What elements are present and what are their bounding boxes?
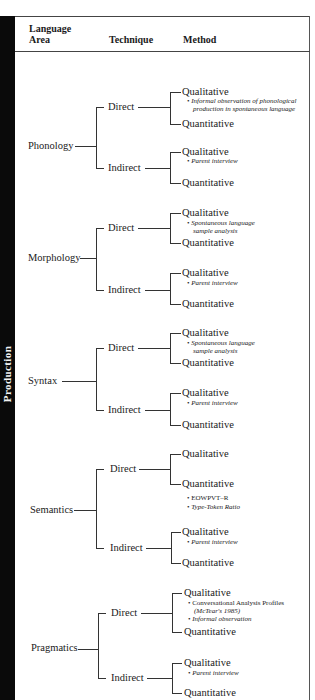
area-label: Semantics — [30, 504, 73, 515]
method-qualitative: Qualitative — [182, 146, 229, 157]
connector — [138, 107, 170, 108]
connector — [170, 304, 181, 305]
connector — [172, 663, 173, 694]
method-quantitative: Quantitative — [182, 298, 234, 309]
sidebar-band: Production — [0, 16, 15, 700]
connector — [96, 410, 104, 411]
connector — [170, 363, 181, 364]
connector — [146, 548, 171, 549]
connector — [170, 333, 181, 334]
method-note: • Parent interview — [187, 279, 238, 287]
connector — [139, 469, 170, 470]
technique-direct: Direct — [108, 101, 134, 112]
method-note: • Parent interview — [188, 669, 239, 677]
connector — [96, 348, 97, 411]
connector — [96, 228, 97, 291]
method-qualitative: Qualitative — [182, 327, 229, 338]
connector — [170, 213, 171, 244]
connector — [172, 693, 182, 694]
connector — [170, 273, 181, 274]
connector — [170, 152, 181, 153]
connector — [170, 454, 171, 485]
connector — [138, 228, 170, 229]
connector — [172, 632, 182, 633]
connector — [96, 469, 104, 470]
connector — [96, 348, 104, 349]
header-language-area-line1: Language — [29, 24, 71, 34]
connector — [172, 593, 173, 633]
connector — [75, 146, 96, 147]
technique-direct: Direct — [110, 463, 136, 474]
method-quantitative: Quantitative — [182, 177, 234, 188]
connector — [170, 393, 171, 426]
connector — [145, 410, 170, 411]
method-qualitative: Qualitative — [182, 267, 229, 278]
connector — [172, 663, 182, 664]
method-quantitative: Quantitative — [184, 626, 236, 637]
connector — [98, 613, 106, 614]
method-quantitative: Quantitative — [182, 357, 234, 368]
method-quantitative: Quantitative — [182, 478, 234, 489]
connector — [74, 510, 96, 511]
header-language-area-line2: Area — [29, 35, 50, 45]
method-note: production in spontaneous language — [193, 105, 295, 113]
connector — [98, 678, 106, 679]
method-note: • Type-Token Ratio — [187, 503, 240, 511]
connector — [141, 613, 172, 614]
sidebar-label-production: Production — [1, 346, 13, 402]
method-qualitative: Qualitative — [184, 657, 231, 668]
method-note: • Parent interview — [187, 399, 238, 407]
area-label: Syntax — [28, 375, 57, 386]
connector — [172, 593, 182, 594]
connector — [98, 613, 99, 679]
connector — [170, 92, 171, 125]
method-note: sample analysis — [193, 227, 238, 235]
method-note: • Parent interview — [187, 538, 238, 546]
technique-indirect: Indirect — [111, 672, 144, 683]
connector — [96, 107, 104, 108]
frame-right-border — [309, 16, 310, 700]
connector — [145, 290, 170, 291]
technique-indirect: Indirect — [110, 542, 143, 553]
connector — [145, 168, 170, 169]
area-label: Phonology — [28, 140, 74, 151]
method-qualitative: Qualitative — [182, 387, 229, 398]
method-quantitative: Quantitative — [182, 237, 234, 248]
connector — [62, 381, 96, 382]
method-qualitative: Qualitative — [182, 526, 229, 537]
connector — [170, 333, 171, 364]
method-note: • Conversational Analysis Profiles — [188, 599, 284, 607]
connector — [78, 649, 99, 650]
connector — [171, 532, 172, 564]
connector — [171, 563, 181, 564]
connector — [96, 168, 104, 169]
connector — [170, 243, 181, 244]
connector — [80, 258, 96, 259]
method-note: • Informal observation — [188, 615, 252, 623]
connector — [96, 228, 104, 229]
connector — [170, 92, 181, 93]
connector — [170, 183, 181, 184]
connector — [96, 548, 104, 549]
connector — [170, 213, 181, 214]
connector — [147, 678, 172, 679]
area-label: Pragmatics — [31, 642, 78, 653]
connector — [170, 393, 181, 394]
method-note: • Parent interview — [187, 157, 238, 165]
technique-indirect: Indirect — [108, 284, 141, 295]
technique-direct: Direct — [108, 342, 134, 353]
method-note: • EOWPVT–R — [187, 494, 229, 502]
method-quantitative: Quantitative — [182, 419, 234, 430]
method-qualitative: Qualitative — [184, 587, 231, 598]
method-note: • Informal observation of phonological — [187, 97, 296, 105]
connector — [170, 273, 171, 305]
connector — [96, 290, 104, 291]
method-qualitative: Qualitative — [182, 448, 229, 459]
technique-indirect: Indirect — [108, 162, 141, 173]
connector — [96, 107, 97, 169]
connector — [170, 152, 171, 184]
technique-direct: Direct — [111, 607, 137, 618]
technique-indirect: Indirect — [108, 404, 141, 415]
connector — [171, 532, 181, 533]
frame-top-border — [15, 16, 310, 17]
